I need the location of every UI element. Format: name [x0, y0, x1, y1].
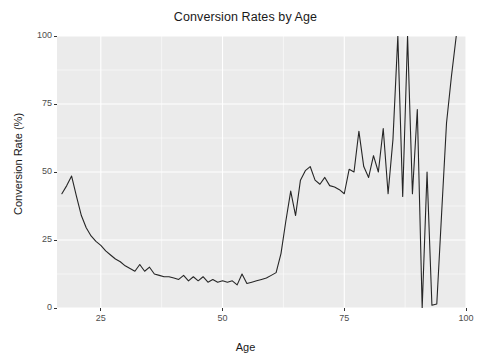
x-tick-mark: [100, 308, 101, 311]
x-tick-label: 50: [203, 313, 243, 323]
chart-title: Conversion Rates by Age: [0, 10, 491, 24]
chart-figure: Conversion Rates by Age Conversion Rate …: [0, 0, 491, 364]
x-tick-label: 100: [446, 313, 486, 323]
y-tick-label: 25: [22, 234, 52, 244]
plot-panel: [57, 36, 466, 308]
plot-svg: [57, 36, 466, 308]
y-tick-label: 75: [22, 98, 52, 108]
x-tick-mark: [466, 308, 467, 311]
x-tick-mark: [222, 308, 223, 311]
y-tick-label: 100: [22, 30, 52, 40]
x-tick-mark: [344, 308, 345, 311]
y-axis-title: Conversion Rate (%): [12, 84, 24, 244]
y-tick-label: 0: [22, 302, 52, 312]
x-axis-title: Age: [0, 341, 491, 353]
grid-major-lines: [57, 36, 466, 308]
x-tick-label: 25: [81, 313, 121, 323]
y-tick-label: 50: [22, 166, 52, 176]
x-tick-label: 75: [324, 313, 364, 323]
